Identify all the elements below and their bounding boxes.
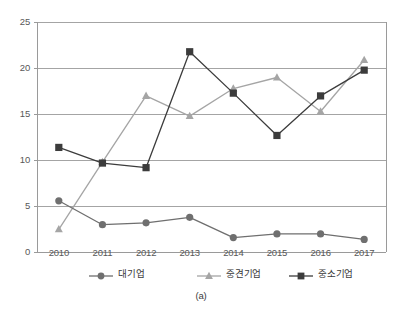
triangle-marker-icon <box>196 268 222 280</box>
y-tick-label: 25 <box>4 17 30 27</box>
series-circle <box>55 197 368 243</box>
data-point-square <box>298 273 305 280</box>
data-point-circle <box>142 219 149 226</box>
legend-item-2[interactable]: 중견기업 <box>196 266 261 282</box>
data-point-triangle <box>360 56 368 63</box>
x-axis-tick-labels: 20102011201220132014201520162017 <box>0 248 402 262</box>
series-triangle <box>55 56 368 233</box>
data-point-circle <box>99 221 106 228</box>
legend-label: 대기업 <box>118 269 144 279</box>
x-tick-label: 2010 <box>39 248 79 258</box>
x-tick-label: 2015 <box>257 248 297 258</box>
data-point-circle <box>317 230 324 237</box>
data-point-triangle <box>273 73 281 80</box>
data-point-square <box>55 144 62 151</box>
legend-item-1[interactable]: 대기업 <box>88 266 144 282</box>
data-point-square <box>317 92 324 99</box>
chart-legend: 대기업중견기업중소기업 <box>0 266 402 282</box>
data-point-circle <box>361 236 368 243</box>
circle-marker-icon <box>88 268 114 280</box>
axis-lines <box>34 22 386 252</box>
data-point-circle <box>55 197 62 204</box>
square-marker-icon <box>288 268 314 280</box>
data-point-circle <box>98 273 105 280</box>
x-tick-label: 2016 <box>301 248 341 258</box>
data-point-triangle <box>142 92 150 99</box>
x-tick-label: 2017 <box>344 248 384 258</box>
data-point-square <box>273 132 280 139</box>
chart-figure: 0510152025 20102011201220132014201520162… <box>0 0 402 313</box>
legend-item-3[interactable]: 중소기업 <box>288 266 353 282</box>
x-tick-label: 2013 <box>170 248 210 258</box>
data-point-square <box>361 67 368 74</box>
legend-label: 중견기업 <box>226 269 261 279</box>
data-point-circle <box>273 230 280 237</box>
y-tick-label: 10 <box>4 155 30 165</box>
y-tick-label: 5 <box>4 201 30 211</box>
data-point-triangle <box>205 272 213 279</box>
series-line <box>59 60 364 229</box>
series-layer <box>55 48 368 243</box>
y-tick-label: 20 <box>4 63 30 73</box>
x-tick-label: 2012 <box>126 248 166 258</box>
data-point-circle <box>230 234 237 241</box>
x-tick-label: 2014 <box>213 248 253 258</box>
data-point-circle <box>186 214 193 221</box>
x-tick-label: 2011 <box>82 248 122 258</box>
data-point-square <box>99 159 106 166</box>
data-point-square <box>142 164 149 171</box>
figure-caption: (a) <box>0 290 402 301</box>
data-point-square <box>186 48 193 55</box>
data-point-square <box>230 90 237 97</box>
legend-label: 중소기업 <box>318 269 353 279</box>
y-tick-label: 15 <box>4 109 30 119</box>
